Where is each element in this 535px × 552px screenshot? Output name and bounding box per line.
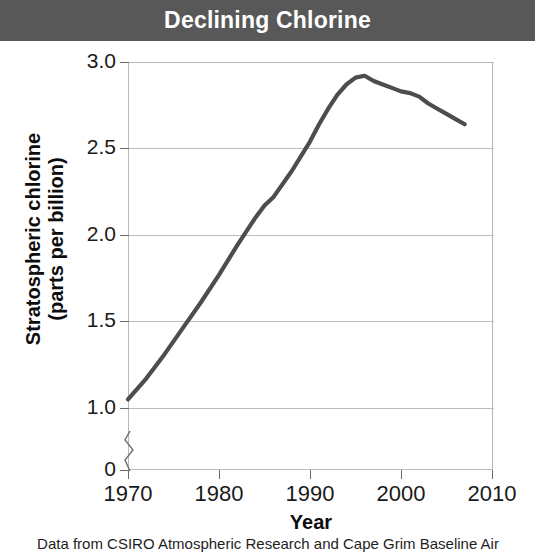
y-tick-2.5	[120, 148, 129, 149]
x-tick-label-1980: 1980	[174, 481, 264, 507]
y-axis-break-icon	[121, 431, 137, 473]
x-tick-1970	[128, 470, 129, 479]
x-tick-1980	[219, 470, 220, 479]
y-tick-3.0	[120, 62, 129, 63]
y-axis-title-line1: Stratospheric chlorine	[22, 133, 44, 345]
x-tick-label-1990: 1990	[265, 481, 355, 507]
page-title: Declining Chlorine	[164, 7, 371, 34]
x-tick-2010	[492, 470, 493, 479]
plot-area	[128, 62, 493, 470]
figure-caption: Data from CSIRO Atmospheric Research and…	[8, 535, 528, 552]
y-tick-label-2.0: 2.0	[70, 223, 116, 244]
chart-title-banner: Declining Chlorine	[0, 0, 535, 41]
y-axis-title: Stratospheric chlorine (parts per billio…	[22, 39, 68, 439]
chart-figure: 3.0 2.5 2.0 1.5 1.0 0 1970 1980 1990 200…	[0, 41, 535, 549]
y-tick-2.0	[120, 235, 129, 236]
x-axis-title: Year	[128, 511, 494, 534]
y-tick-label-3.0: 3.0	[70, 50, 116, 71]
x-tick-2000	[401, 470, 402, 479]
y-axis-title-line2: (parts per billion)	[45, 39, 68, 439]
y-tick-1.0	[120, 408, 129, 409]
y-tick-label-1.0: 1.0	[70, 396, 116, 417]
x-tick-1990	[310, 470, 311, 479]
y-tick-label-2.5: 2.5	[70, 136, 116, 157]
y-tick-label-0: 0	[70, 458, 116, 479]
y-tick-1.5	[120, 321, 129, 322]
y-tick-label-1.5: 1.5	[70, 309, 116, 330]
x-tick-label-2000: 2000	[356, 481, 446, 507]
x-tick-label-1970: 1970	[83, 481, 173, 507]
x-tick-label-2010: 2010	[447, 481, 535, 507]
